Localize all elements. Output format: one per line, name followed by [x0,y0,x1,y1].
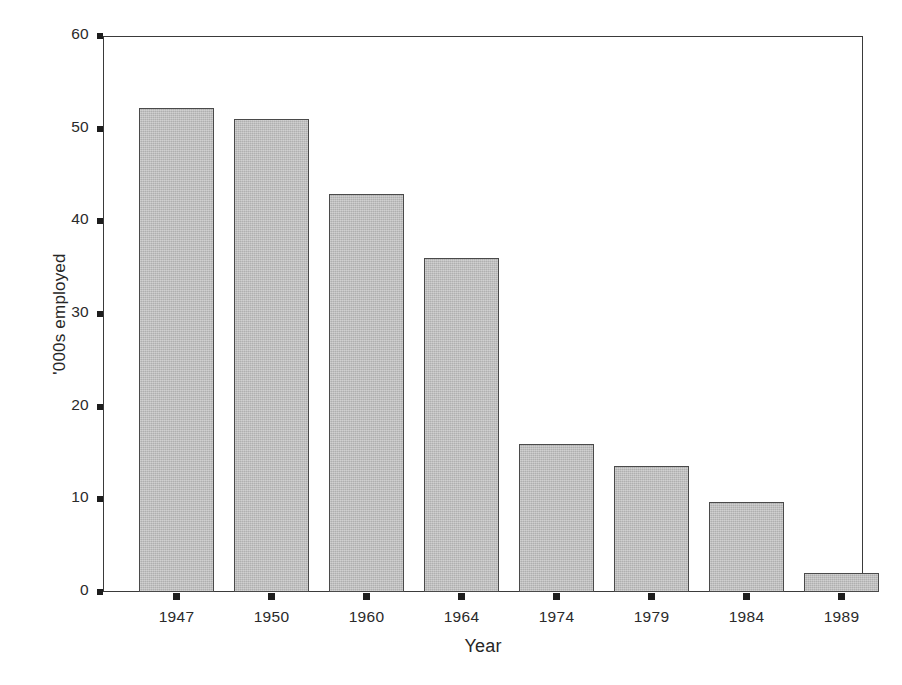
bar-chart: 0102030405060 19471950196019641974197919… [0,0,902,685]
x-tick-mark [553,593,560,600]
x-tick-mark [268,593,275,600]
bar[interactable] [234,119,309,592]
x-tick-mark [648,593,655,600]
bar-slot [424,36,499,592]
bar-slot [329,36,404,592]
bar-slot [614,36,689,592]
x-tick-label: 1989 [824,608,860,626]
bar[interactable] [519,444,594,592]
bar-slot [804,36,879,592]
x-tick-label: 1960 [349,608,385,626]
x-tick-label: 1979 [634,608,670,626]
bar[interactable] [329,194,404,592]
bars-layer [103,36,863,592]
x-tick-mark [838,593,845,600]
bar[interactable] [709,502,784,592]
bar-slot [139,36,214,592]
bar-slot [709,36,784,592]
bar[interactable] [804,573,879,592]
bar-slot [234,36,309,592]
bar-slot [519,36,594,592]
x-tick-mark [363,593,370,600]
x-tick-label: 1974 [539,608,575,626]
bar[interactable] [614,466,689,592]
x-tick-label: 1947 [159,608,195,626]
x-tick-label: 1964 [444,608,480,626]
x-tick-mark [173,593,180,600]
y-tick-label: 0 [80,581,89,599]
x-tick-label: 1984 [729,608,765,626]
x-tick-label: 1950 [254,608,290,626]
x-tick-mark [743,593,750,600]
bar[interactable] [139,108,214,592]
bar[interactable] [424,258,499,592]
x-axis-title: Year [103,636,863,657]
x-tick-mark [458,593,465,600]
y-axis-title: '000s employed [42,36,78,592]
